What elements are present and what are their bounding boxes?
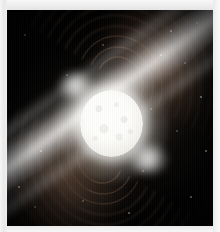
figure-page: [0, 0, 220, 232]
right-margin: [213, 0, 220, 232]
top-margin: [0, 0, 220, 10]
left-margin: [0, 0, 7, 232]
jet-base-knot-northwest: [59, 72, 93, 100]
jet-base-knot-southeast: [129, 144, 167, 174]
neutron-star-surface-texture: [80, 90, 143, 157]
bottom-margin: [0, 226, 220, 232]
pulsar-illustration: [7, 10, 213, 226]
